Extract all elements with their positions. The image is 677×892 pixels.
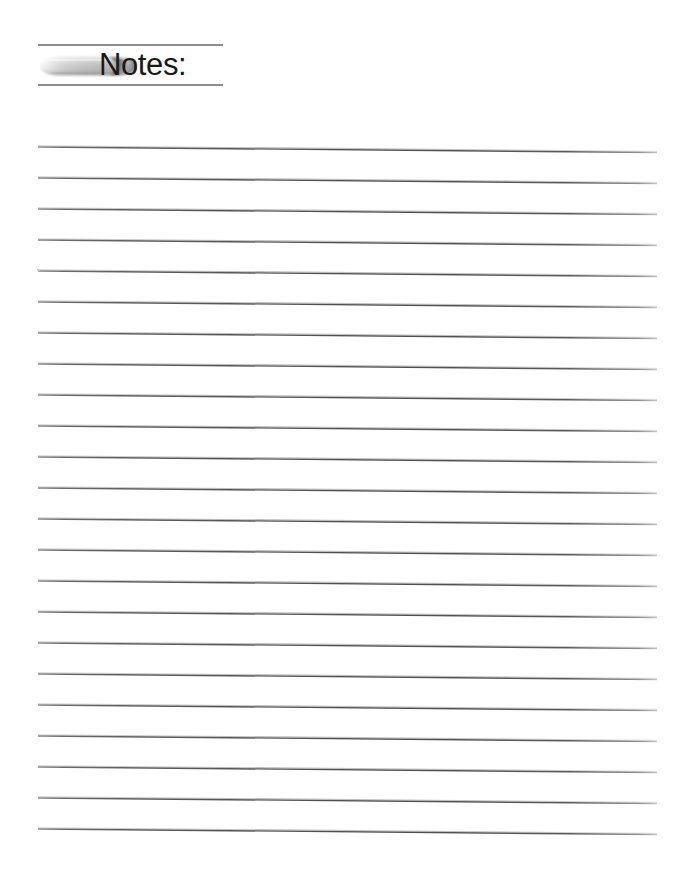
note-page: Notes: [0,0,677,892]
rule-line-highlight [38,456,657,462]
rule-line-highlight [38,146,657,152]
rule-line [38,643,657,649]
rule-line-highlight [38,735,657,741]
rule-line-highlight [38,487,657,493]
rule-line [38,178,657,184]
rule-line [38,395,657,401]
rule-line [38,736,657,742]
rule-line [38,581,657,587]
rule-line-highlight [38,301,657,307]
rule-line [38,612,657,618]
rule-line-highlight [38,177,657,183]
rule-line-highlight [38,797,657,803]
rule-line-highlight [38,518,657,524]
rule-line-highlight [38,270,657,276]
rule-line [38,798,657,804]
scan-speck-artifact [37,269,40,271]
rule-line-highlight [38,208,657,214]
rule-line-highlight [38,332,657,338]
rule-line [38,674,657,680]
rule-line [38,457,657,463]
rule-line [38,767,657,773]
rule-line-highlight [38,704,657,710]
rule-line-highlight [38,673,657,679]
page-title: Notes: [99,44,186,86]
rule-line [38,271,657,277]
rule-line [38,302,657,308]
rule-line-highlight [38,239,657,245]
rule-line-highlight [38,766,657,772]
rule-line [38,426,657,432]
rule-line [38,705,657,711]
rule-line [38,333,657,339]
rule-line-highlight [38,611,657,617]
rule-line-highlight [38,425,657,431]
rule-line-highlight [38,549,657,555]
ruled-lines-group [0,0,677,892]
rule-line-highlight [38,363,657,369]
rule-line-highlight [38,828,657,834]
rule-line [38,519,657,525]
rule-line-highlight [38,580,657,586]
rule-line [38,829,657,835]
rule-line [38,209,657,215]
rule-line [38,240,657,246]
rule-line-highlight [38,642,657,648]
rule-line [38,364,657,370]
rule-line-highlight [38,394,657,400]
rule-line [38,488,657,494]
rule-line [38,147,657,153]
rule-line [38,550,657,556]
